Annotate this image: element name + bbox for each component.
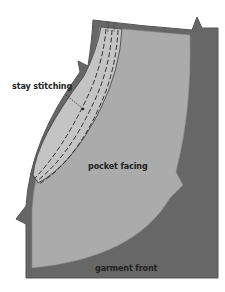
garment-front-label: garment front [95, 264, 157, 273]
diagram-canvas: stay stitching pocket facing garment fro… [0, 0, 225, 292]
stay-stitching-leader-dot [82, 108, 85, 111]
pocket-diagram [0, 0, 225, 292]
pocket-facing-label: pocket facing [88, 162, 148, 171]
stay-stitching-label: stay stitching [12, 82, 72, 91]
